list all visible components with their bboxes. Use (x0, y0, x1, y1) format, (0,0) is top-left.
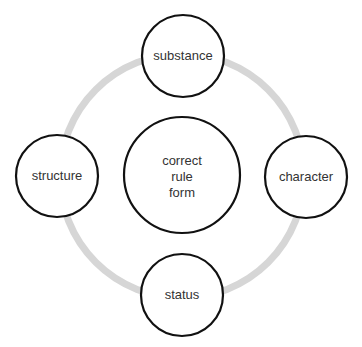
node-label-substance: substance (153, 48, 212, 63)
node-label-structure: structure (32, 168, 83, 183)
node-character: character (265, 136, 347, 218)
node-structure: structure (16, 135, 98, 217)
node-label-character: character (279, 169, 334, 184)
node-substance: substance (142, 15, 224, 97)
center-line-1: correct (162, 153, 202, 168)
center-line-2: rule (171, 169, 193, 184)
cycle-diagram: correct rule form substance character st… (0, 0, 362, 347)
center-line-3: form (169, 185, 195, 200)
center-node: correct rule form (124, 117, 240, 233)
node-label-status: status (165, 287, 200, 302)
diagram-canvas: correct rule form substance character st… (0, 0, 362, 347)
node-status: status (141, 254, 223, 336)
